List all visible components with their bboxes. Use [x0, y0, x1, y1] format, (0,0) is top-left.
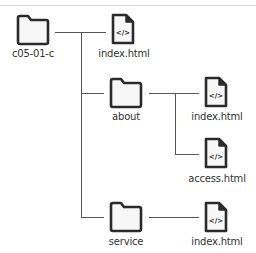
html-file-icon: </> [203, 201, 229, 233]
folder-icon [108, 201, 144, 233]
connector-to-root-index [81, 32, 106, 33]
svg-text:</>: </> [209, 92, 223, 100]
connector-to-service [81, 217, 104, 218]
file-about-access[interactable]: </> [203, 137, 229, 169]
folder-icon [108, 77, 144, 109]
file-root-index-label: index.html [98, 48, 149, 59]
connector-service-horizontal [149, 217, 199, 218]
svg-text:</>: </> [209, 153, 223, 161]
folder-root[interactable] [15, 14, 51, 46]
connector-about-vertical [175, 93, 176, 155]
html-file-icon: </> [203, 137, 229, 169]
file-about-index-label: index.html [191, 111, 242, 122]
folder-about[interactable] [108, 77, 144, 109]
file-service-index[interactable]: </> [203, 201, 229, 233]
svg-text:</>: </> [209, 217, 223, 225]
folder-service-label: service [109, 236, 143, 247]
folder-root-label: c05-01-c [12, 48, 54, 59]
folder-about-label: about [112, 111, 140, 122]
svg-text:</>: </> [116, 29, 130, 37]
html-file-icon: </> [203, 76, 229, 108]
connector-about-horizontal [149, 93, 199, 94]
file-service-index-label: index.html [191, 236, 242, 247]
file-about-access-label: access.html [188, 173, 245, 184]
connector-root-horizontal [55, 32, 81, 33]
file-about-index[interactable]: </> [203, 76, 229, 108]
html-file-icon: </> [110, 13, 136, 45]
connector-to-access [175, 154, 199, 155]
file-root-index[interactable]: </> [110, 13, 136, 45]
top-divider [0, 5, 256, 6]
folder-icon [15, 14, 51, 46]
folder-service[interactable] [108, 201, 144, 233]
connector-trunk-vertical [81, 32, 82, 218]
connector-to-about [81, 93, 104, 94]
